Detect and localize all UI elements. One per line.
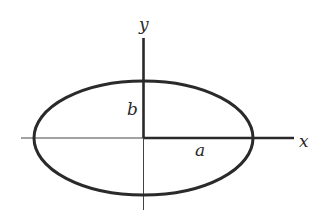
y-axis-label: y	[138, 14, 149, 34]
x-axis-label: x	[299, 131, 309, 151]
ellipse-diagram: y x b a	[0, 0, 321, 210]
semi-major-label: a	[195, 140, 205, 160]
semi-minor-label: b	[127, 99, 138, 119]
diagram-svg: y x b a	[0, 0, 321, 210]
